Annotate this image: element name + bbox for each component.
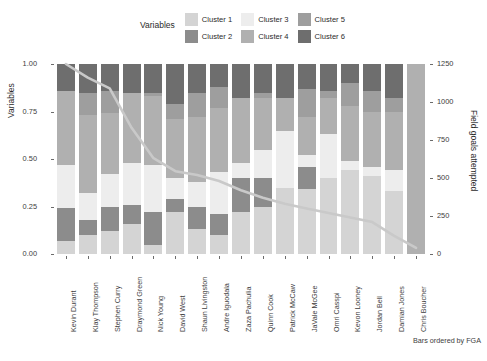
y-tick-label-right: 500 xyxy=(437,173,449,182)
legend-swatch-cluster-2 xyxy=(185,30,198,43)
legend-item-cluster-1[interactable]: Cluster 1 xyxy=(185,12,232,27)
x-tick-mark xyxy=(416,256,417,259)
legend-item-cluster-6[interactable]: Cluster 6 xyxy=(298,29,345,44)
x-tick-mark xyxy=(219,256,220,259)
chart-container: Variables Cluster 1 Cluster 2 Cluster 3 xyxy=(0,0,487,361)
x-tick-label: Klay Thompson xyxy=(91,282,100,332)
legend-swatch-cluster-4 xyxy=(241,30,254,43)
y-tick-mark-right xyxy=(430,102,433,103)
y-tick-mark-right xyxy=(430,140,433,141)
x-tick-mark xyxy=(241,256,242,259)
x-tick-label: Omri Casspi xyxy=(332,292,341,332)
x-tick-mark xyxy=(66,256,67,259)
legend: Variables Cluster 1 Cluster 2 Cluster 3 xyxy=(140,12,354,46)
y-axis-right-ticks: 025050075010001250 xyxy=(428,0,478,361)
x-tick-label: Draymond Green xyxy=(135,277,144,332)
x-tick-mark xyxy=(263,256,264,259)
legend-column-3: Cluster 5 Cluster 6 xyxy=(298,12,345,46)
legend-item-cluster-4[interactable]: Cluster 4 xyxy=(241,29,288,44)
legend-label-cluster-1: Cluster 1 xyxy=(202,15,232,24)
y-tick-mark-left xyxy=(51,254,54,255)
x-tick-mark xyxy=(307,256,308,259)
x-tick-label: Nick Young xyxy=(156,296,165,332)
y-tick-label-right: 1250 xyxy=(437,59,453,68)
legend-swatch-cluster-3 xyxy=(241,13,254,26)
x-tick-mark xyxy=(153,256,154,259)
x-tick-label: Shaun Livingston xyxy=(200,277,209,332)
legend-label-cluster-2: Cluster 2 xyxy=(202,32,232,41)
y-tick-mark-left xyxy=(51,207,54,208)
legend-label-cluster-5: Cluster 5 xyxy=(315,15,345,24)
y-tick-mark-left xyxy=(51,112,54,113)
y-tick-mark-right xyxy=(430,178,433,179)
plot-panel xyxy=(55,64,427,254)
y-tick-label-left: 1.00 xyxy=(23,59,37,68)
y-axis-left-ticks: 0.000.250.500.751.00 xyxy=(0,0,46,361)
legend-column-2: Cluster 3 Cluster 4 xyxy=(241,12,288,46)
x-tick-mark xyxy=(132,256,133,259)
legend-label-cluster-3: Cluster 3 xyxy=(258,15,288,24)
legend-item-cluster-5[interactable]: Cluster 5 xyxy=(298,12,345,27)
fga-line-overlay xyxy=(55,64,427,254)
x-tick-label: Zaza Pachulia xyxy=(244,286,253,332)
legend-swatch-cluster-5 xyxy=(298,13,311,26)
y-tick-label-left: 0.75 xyxy=(23,107,37,116)
x-tick-mark xyxy=(197,256,198,259)
y-tick-label-right: 0 xyxy=(437,249,441,258)
x-tick-label: JaVale McGee xyxy=(310,285,319,332)
y-tick-mark-right xyxy=(430,216,433,217)
x-tick-label: Kevon Looney xyxy=(353,286,362,332)
x-tick-label: Andre Iguodala xyxy=(222,283,231,332)
legend-title: Variables xyxy=(140,20,175,30)
x-tick-mark xyxy=(372,256,373,259)
x-tick-mark xyxy=(88,256,89,259)
y-tick-label-left: 0.00 xyxy=(23,249,37,258)
x-tick-mark xyxy=(285,256,286,259)
x-tick-label: Quinn Cook xyxy=(266,294,275,332)
y-tick-label-right: 250 xyxy=(437,211,449,220)
x-tick-label: Stephen Curry xyxy=(113,286,122,332)
legend-swatch-cluster-1 xyxy=(185,13,198,26)
legend-columns: Cluster 1 Cluster 2 Cluster 3 Cluster 4 xyxy=(185,12,354,46)
x-tick-label: Chris Boucher xyxy=(419,286,428,332)
legend-column-1: Cluster 1 Cluster 2 xyxy=(185,12,232,46)
x-tick-label: David West xyxy=(178,295,187,332)
y-tick-mark-left xyxy=(51,64,54,65)
y-tick-label-left: 0.25 xyxy=(23,202,37,211)
y-tick-label-left: 0.50 xyxy=(23,154,37,163)
y-tick-mark-right xyxy=(430,254,433,255)
fga-line xyxy=(66,64,416,248)
legend-label-cluster-6: Cluster 6 xyxy=(315,32,345,41)
x-tick-mark xyxy=(329,256,330,259)
x-axis-labels: Kevin DurantKlay ThompsonStephen CurryDr… xyxy=(55,256,427,336)
x-tick-mark xyxy=(394,256,395,259)
x-tick-mark xyxy=(110,256,111,259)
x-tick-label: Damian Jones xyxy=(397,286,406,332)
x-tick-mark xyxy=(175,256,176,259)
y-tick-label-right: 750 xyxy=(437,135,449,144)
y-tick-label-right: 1000 xyxy=(437,97,453,106)
legend-item-cluster-2[interactable]: Cluster 2 xyxy=(185,29,232,44)
legend-label-cluster-4: Cluster 4 xyxy=(258,32,288,41)
x-tick-label: Jordan Bell xyxy=(375,296,384,332)
x-tick-label: Patrick McCaw xyxy=(288,284,297,332)
legend-swatch-cluster-6 xyxy=(298,30,311,43)
chart-caption: Bars ordered by FGA xyxy=(0,336,481,345)
x-tick-label: Kevin Durant xyxy=(69,290,78,332)
y-tick-mark-right xyxy=(430,64,433,65)
legend-item-cluster-3[interactable]: Cluster 3 xyxy=(241,12,288,27)
x-tick-mark xyxy=(350,256,351,259)
y-tick-mark-left xyxy=(51,159,54,160)
